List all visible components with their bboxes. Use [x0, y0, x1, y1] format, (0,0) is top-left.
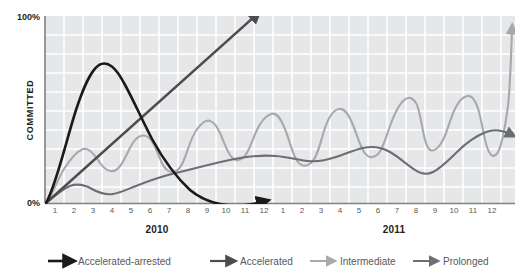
x-tick-2011-8: 8: [414, 206, 419, 215]
legend-item-intermediate[interactable]: Intermediate: [310, 256, 396, 267]
legend-label-accelerated: Accelerated: [240, 256, 293, 267]
x-axis-group-label-2010: 2010: [145, 224, 168, 235]
legend-label-prolonged: Prolonged: [443, 256, 489, 267]
x-tick-2010-8: 8: [186, 206, 191, 215]
x-tick-2010-3: 3: [91, 206, 96, 215]
x-tick-2010-12: 12: [260, 206, 269, 215]
x-tick-2011-12: 12: [488, 206, 497, 215]
legend-label-intermediate: Intermediate: [340, 256, 396, 267]
x-tick-2010-5: 5: [129, 206, 134, 215]
x-tick-2010-11: 11: [241, 206, 250, 215]
x-tick-2010-2: 2: [72, 206, 77, 215]
x-tick-2010-7: 7: [167, 206, 172, 215]
legend-item-prolonged[interactable]: Prolonged: [413, 256, 489, 267]
x-tick-2011-3: 3: [319, 206, 324, 215]
x-tick-2011-5: 5: [357, 206, 362, 215]
chart-figure: 100% 0% COMMITTED 1 2 3 4 5 6 7 8 9 10 1…: [0, 0, 528, 277]
x-tick-2011-9: 9: [433, 206, 438, 215]
chart-legend: Accelerated-arrested Accelerated Interme…: [48, 256, 489, 267]
chart-svg: 100% 0% COMMITTED 1 2 3 4 5 6 7 8 9 10 1…: [0, 0, 528, 277]
y-axis-top-label: 100%: [17, 12, 40, 22]
x-tick-2011-7: 7: [395, 206, 400, 215]
x-axis-ticks-2011: 1 2 3 4 5 6 7 8 9 10 11 12: [281, 206, 497, 215]
x-tick-2011-4: 4: [338, 206, 343, 215]
legend-item-accelerated-arrested[interactable]: Accelerated-arrested: [48, 256, 171, 267]
y-axis-bottom-label: 0%: [27, 198, 40, 208]
x-tick-2011-6: 6: [376, 206, 381, 215]
x-tick-2010-10: 10: [222, 206, 231, 215]
x-tick-2011-2: 2: [300, 206, 305, 215]
x-tick-2010-9: 9: [205, 206, 210, 215]
x-tick-2011-11: 11: [469, 206, 478, 215]
legend-label-accelerated-arrested: Accelerated-arrested: [78, 256, 171, 267]
y-axis-title: COMMITTED: [25, 80, 35, 141]
x-tick-2011-10: 10: [450, 206, 459, 215]
x-tick-2010-4: 4: [110, 206, 115, 215]
x-axis-group-label-2011: 2011: [383, 224, 406, 235]
x-tick-2010-1: 1: [53, 206, 58, 215]
x-tick-2010-6: 6: [148, 206, 153, 215]
x-axis-ticks-2010: 1 2 3 4 5 6 7 8 9 10 11 12: [53, 206, 269, 215]
legend-item-accelerated[interactable]: Accelerated: [210, 256, 293, 267]
x-tick-2011-1: 1: [281, 206, 286, 215]
